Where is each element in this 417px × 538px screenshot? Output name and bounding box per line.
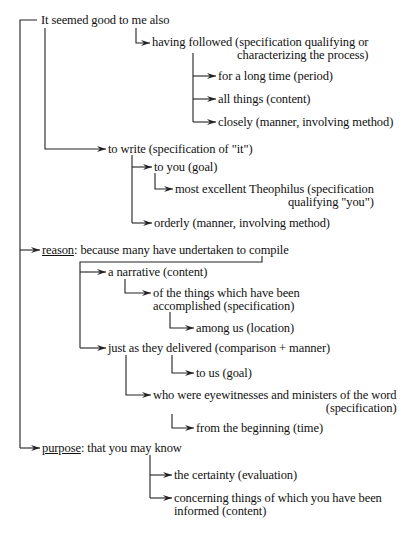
node-among-us: among us (location) [196, 322, 294, 335]
node-all-things: all things (content) [218, 93, 310, 106]
node-eyewitnesses: who were eyewitnesses and ministers of t… [153, 389, 397, 415]
node-text-line2: qualifying "you") [175, 196, 374, 209]
connector-lines [0, 0, 417, 538]
purpose-label: purpose [42, 441, 81, 455]
to-write-arrow [45, 28, 106, 149]
node-text: : because many have undertaken to compil… [74, 243, 289, 257]
node-text: to you (goal) [154, 160, 217, 174]
having-followed-arrow [136, 28, 150, 43]
node-closely: closely (manner, involving method) [218, 116, 393, 129]
node-things-accomplished: of the things which have been accomplish… [153, 287, 300, 313]
node-it-seemed-good: It seemed good to me also [41, 14, 169, 27]
node-just-as-delivered: just as they delivered (comparison + man… [108, 342, 330, 355]
node-reason: reason: because many have undertaken to … [42, 244, 289, 257]
node-narrative: a narrative (content) [108, 266, 207, 279]
node-certainty: the certainty (evaluation) [174, 469, 297, 482]
theophilus-arrow [155, 173, 173, 189]
reason-label: reason [42, 243, 74, 257]
node-text: among us (location) [196, 321, 294, 335]
node-text-line2: characterizing the process) [152, 49, 368, 62]
eyewitnesses-arrow [126, 355, 151, 395]
node-text: the certainty (evaluation) [174, 468, 297, 482]
clause-diagram: It seemed good to me also having followe… [0, 0, 417, 538]
to-us-arrow [172, 355, 194, 373]
node-concerning-things: concerning things of which you have been… [174, 492, 382, 518]
node-text-line2: informed (content) [174, 505, 382, 518]
node-to-write: to write (specification of "it") [108, 143, 252, 156]
node-text: It seemed good to me also [41, 13, 169, 27]
node-theophilus: most excellent Theophilus (specification… [175, 183, 374, 209]
node-text: just as they delivered (comparison + man… [108, 341, 330, 355]
node-text: to write (specification of "it") [108, 142, 252, 156]
root-bracket [20, 20, 37, 448]
node-period: for a long time (period) [218, 70, 333, 83]
node-from-beginning: from the beginning (time) [196, 422, 323, 435]
node-text: closely (manner, involving method) [218, 115, 393, 129]
node-text: all things (content) [218, 92, 310, 106]
node-text: for a long time (period) [218, 69, 333, 83]
beginning-arrow [172, 414, 194, 428]
node-text: from the beginning (time) [196, 421, 323, 435]
node-having-followed: having followed (specification qualifyin… [152, 36, 368, 62]
node-text: to us (goal) [196, 366, 252, 380]
node-text-line2: (specification) [153, 402, 397, 415]
node-text-line2: accomplished (specification) [153, 300, 300, 313]
among-us-arrow [170, 312, 194, 328]
node-text: orderly (manner, involving method) [154, 216, 330, 230]
node-text: a narrative (content) [108, 265, 207, 279]
node-to-you: to you (goal) [154, 161, 217, 174]
node-text: : that you may know [81, 441, 182, 455]
things-arrow [125, 279, 151, 293]
node-purpose: purpose: that you may know [42, 442, 182, 455]
node-to-us: to us (goal) [196, 367, 252, 380]
node-orderly: orderly (manner, involving method) [154, 217, 330, 230]
